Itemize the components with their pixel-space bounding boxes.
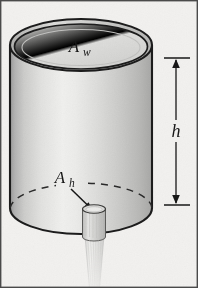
- figure-container: A w A h: [0, 0, 198, 288]
- tank-diagram-svg: A w A h: [0, 0, 198, 288]
- paper-grain-overlay: [0, 0, 198, 288]
